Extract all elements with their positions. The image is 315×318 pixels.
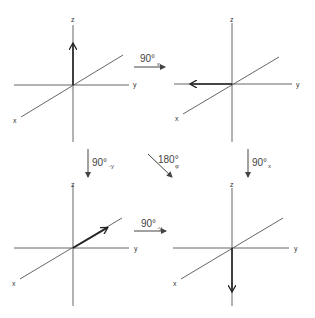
x-label: x [13, 117, 17, 124]
rotation-angle: 90° [92, 157, 107, 168]
rotation-axis: φ [175, 163, 179, 169]
figure-top-left: z y x [13, 16, 137, 142]
rotation-bottom: 90° -y [134, 218, 166, 231]
z-label: z [230, 16, 234, 23]
x-label: x [173, 280, 177, 287]
rotation-axis: -y [109, 163, 114, 169]
figure-bottom-right: z y x [173, 181, 298, 306]
rotation-angle: 90° [141, 218, 156, 229]
y-label: y [133, 81, 137, 89]
vector-arrow [73, 228, 107, 248]
x-label: x [175, 115, 179, 122]
z-label: z [71, 181, 75, 188]
x-axis [21, 55, 123, 117]
rotation-axis: -y [157, 225, 162, 231]
rotation-diagram: z y x z y x z y x z y x 90° x [0, 0, 315, 318]
figure-top-right: z y x [174, 16, 300, 142]
rotation-diagonal: 180° φ [148, 154, 179, 177]
x-label: x [12, 280, 16, 287]
y-label: y [294, 245, 298, 253]
rotation-angle: 90° [140, 53, 155, 64]
rotation-axis: x [157, 61, 160, 67]
x-axis [183, 57, 279, 114]
rotation-axis: x [268, 163, 271, 169]
x-axis [20, 218, 122, 279]
z-label: z [71, 16, 75, 23]
rotation-top: 90° x [134, 53, 165, 67]
figure-bottom-left: z y x [12, 181, 138, 306]
y-label: y [134, 245, 138, 253]
y-label: y [296, 81, 300, 89]
rotation-right: 90° x [248, 149, 271, 177]
z-label: z [230, 181, 234, 188]
rotation-angle: 90° [252, 157, 267, 168]
rotation-left: 90° -y [88, 149, 114, 177]
